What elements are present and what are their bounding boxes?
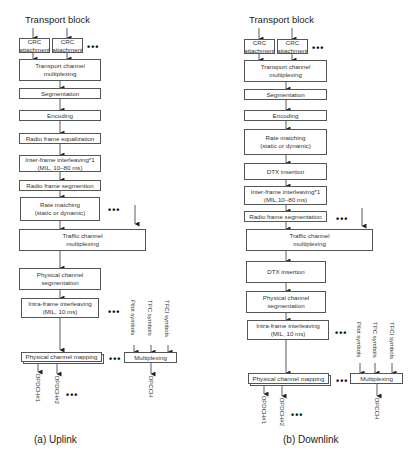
label: Intra-frame interleaving — [256, 322, 320, 330]
label: Traffic channel — [289, 232, 329, 240]
downlink-mapping-ellipsis: ••• — [336, 378, 348, 384]
label: Intra-frame interleaving — [28, 300, 92, 308]
downlink-multiplexing: Multiplexing — [350, 373, 403, 384]
uplink-dpcch-label: DPCCH — [148, 376, 154, 397]
uplink-dpdch1-label: DPDCH#1 — [35, 374, 41, 402]
label: multiplexing — [261, 71, 311, 79]
downlink-radio-frame-segmentation: Radio frame segmentation — [244, 211, 327, 222]
uplink-radio-frame-segmention: Radio frame segmention — [19, 180, 101, 191]
uplink-radio-frame-equalization: Radio frame equalization — [19, 133, 101, 144]
label: Transport channel — [261, 63, 311, 71]
label: (static or dynamic) — [260, 142, 311, 150]
downlink-physical-channel-segmentation: Physical channelsegmentation — [246, 291, 326, 313]
uplink-inter-frame-interleaving: Inter-frame interleaving*1(MIL, 10–80 ms… — [19, 155, 101, 172]
label: Transport channel — [35, 62, 85, 70]
label: (MIL, 10 ms) — [256, 330, 320, 338]
downlink-intra-frame-interleaving: Intra-frame interleaving(MIL, 10 ms) — [247, 320, 329, 340]
downlink-rate-matching: Rate matching(static or dynamic) — [244, 129, 327, 155]
label: (MIL,10–80 ms) — [251, 196, 320, 204]
uplink-segmentation: Segmentation — [19, 88, 101, 99]
uplink-transport-channel-multiplexing: Transport channelmultiplexing — [19, 59, 101, 81]
downlink-transport-block-title: Transport block — [249, 14, 314, 25]
uplink-traffic-channel-multiplexing: Traffic channelmultiplexing — [19, 229, 146, 251]
uplink-intra-frame-interleaving: Intra-frame interleaving(MIL, 10 ms) — [21, 298, 99, 318]
label: attachment — [52, 46, 83, 54]
uplink-dpdch2-label: DPDCH#2 — [54, 376, 60, 404]
downlink-encoding: Encoding — [244, 110, 327, 121]
label: CRC — [52, 38, 83, 46]
label: segmentation — [37, 279, 83, 287]
uplink-crc-attachment-2: CRCattachment — [52, 38, 83, 53]
label: multiplexing — [35, 70, 85, 78]
downlink-segmentation: Segmentation — [244, 89, 327, 100]
downlink-inter-frame-interleaving: Inter-frame interleaving*1(MIL,10–80 ms) — [244, 186, 327, 205]
label: attachment — [244, 47, 275, 55]
uplink-caption: (a) Uplink — [34, 434, 77, 445]
label: attachment — [19, 46, 50, 54]
downlink-rfs-ellipsis: ••• — [336, 216, 348, 222]
label: attachment — [277, 47, 308, 55]
uplink-tfci-symbols-label: TFCI symbols — [164, 300, 170, 344]
downlink-traffic-channel-multiplexing: Traffic channelmultiplexing — [246, 229, 373, 251]
downlink-dtx-insertion-1: DTX insertion — [244, 163, 327, 180]
label: Inter-frame interleaving*1 — [251, 188, 320, 196]
downlink-output-ellipsis: ••• — [291, 412, 303, 418]
downlink-dpdch2-label: DPDCH#2 — [279, 398, 285, 426]
label: Inter-frame interleaving*1 — [25, 156, 94, 164]
label: (MIL, 10 ms) — [28, 308, 92, 316]
label: Physical channel — [263, 294, 309, 302]
uplink-intra-ellipsis: ••• — [108, 309, 120, 315]
uplink-physical-channel-mapping: Physical channel mapping — [21, 352, 102, 362]
label: (static or dynamic) — [35, 209, 86, 217]
uplink-pilot-symbols-label: Pilot symbols — [130, 300, 136, 344]
label: Rate matching — [35, 201, 86, 209]
label: multiplexing — [62, 240, 102, 248]
downlink-tpc-symbols-label: TPC symbols — [372, 322, 378, 362]
label: CRC — [244, 39, 275, 47]
label: CRC — [19, 38, 50, 46]
uplink-crc-attachment-1: CRCattachment — [19, 38, 50, 53]
uplink-crc-ellipsis: ••• — [87, 44, 99, 50]
uplink-output-ellipsis: ••• — [66, 392, 78, 398]
downlink-physical-channel-mapping: Physical channel mapping — [248, 373, 329, 384]
label: Rate matching — [260, 134, 311, 142]
uplink-rate-matching-ellipsis: ••• — [108, 207, 120, 213]
downlink-crc-attachment-2: CRCattachment — [277, 39, 308, 54]
downlink-dpdch1-label: DPDCH#1 — [261, 396, 267, 424]
uplink-rate-matching: Rate matching(static or dynamic) — [20, 197, 100, 221]
label: (MIL, 10–80 ms) — [25, 164, 94, 172]
downlink-tfci-symbols-label: TFCI symbols — [389, 322, 395, 362]
downlink-caption: (b) Downlink — [283, 434, 339, 445]
uplink-encoding: Encoding — [19, 110, 101, 121]
downlink-crc-ellipsis: ••• — [312, 45, 324, 51]
uplink-tpc-symbols-label: TPC symbols — [147, 300, 153, 344]
uplink-physical-channel-segmentation: Physical channelsegmentation — [19, 268, 101, 290]
label: multiplexing — [289, 240, 329, 248]
label: segmentation — [263, 302, 309, 310]
downlink-dtx-insertion-2: DTX insertion — [246, 261, 326, 283]
downlink-transport-channel-multiplexing: Transport channelmultiplexing — [244, 60, 327, 82]
label: Physical channel — [37, 271, 83, 279]
downlink-crc-attachment-1: CRCattachment — [244, 39, 275, 54]
label: Traffic channel — [62, 232, 102, 240]
downlink-dpcch-label: DPCCH — [374, 398, 380, 419]
downlink-pilot-symbols-label: Pilot symbols — [356, 322, 362, 362]
uplink-transport-block-title: Transport block — [25, 14, 90, 25]
uplink-mapping-ellipsis: ••• — [109, 356, 121, 362]
uplink-multiplexing: Multiplexing — [124, 352, 177, 363]
label: CRC — [277, 39, 308, 47]
downlink-intra-ellipsis: ••• — [335, 330, 347, 336]
